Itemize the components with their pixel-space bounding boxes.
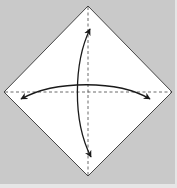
- origami-diagram: [0, 0, 177, 188]
- diagram-canvas: [0, 0, 177, 188]
